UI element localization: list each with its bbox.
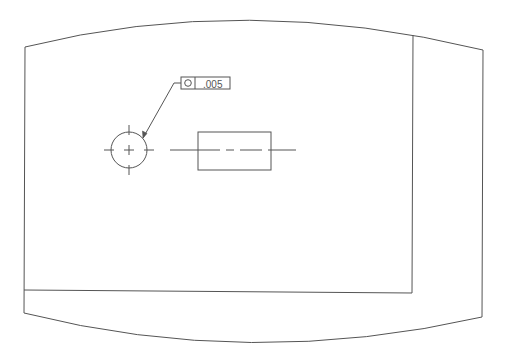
feature-control-frame[interactable]: .005 — [181, 77, 230, 90]
left-edge — [24, 47, 25, 313]
inner-horizontal-line — [24, 290, 412, 293]
inner-vertical-line — [412, 35, 413, 293]
inner-frame — [24, 35, 413, 293]
fcf-tolerance: .005 — [203, 79, 223, 90]
slot-rectangle[interactable] — [198, 132, 271, 170]
leader — [143, 83, 182, 138]
leader-line — [143, 83, 181, 138]
right-edge — [482, 50, 483, 317]
rectangle-feature[interactable] — [170, 132, 296, 170]
sheet-border — [24, 20, 483, 342]
top-arc — [25, 20, 483, 50]
cad-drawing-canvas: .005 — [0, 0, 507, 355]
circularity-symbol-icon — [185, 80, 192, 87]
bottom-arc — [24, 313, 482, 343]
